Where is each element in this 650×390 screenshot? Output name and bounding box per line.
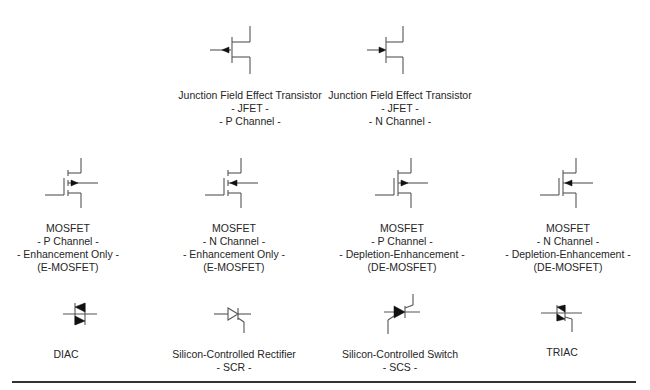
de-mosfet-n-channel-label: MOSFET - N Channel - - Depletion-Enhance… bbox=[505, 222, 630, 274]
bottom-divider bbox=[12, 381, 636, 383]
e-mosfet-n-channel-symbol bbox=[200, 150, 270, 212]
jfet-p-channel-symbol bbox=[205, 20, 295, 80]
diac-label: DIAC bbox=[53, 348, 78, 361]
de-mosfet-n-channel-symbol bbox=[535, 150, 605, 212]
jfet-p-channel-label: Junction Field Effect Transistor - JFET … bbox=[178, 89, 321, 128]
triac-label: TRIAC bbox=[546, 346, 578, 359]
scr-label: Silicon-Controlled Rectifier - SCR - bbox=[172, 348, 296, 374]
e-mosfet-p-channel-label: MOSFET - P Channel - - Enhancement Only … bbox=[17, 222, 119, 274]
e-mosfet-p-channel-symbol bbox=[40, 150, 110, 212]
diac-symbol bbox=[55, 300, 105, 330]
de-mosfet-p-channel-symbol bbox=[370, 150, 440, 212]
jfet-n-channel-symbol bbox=[362, 20, 452, 80]
scs-label: Silicon-Controlled Switch - SCS - bbox=[342, 348, 458, 374]
scr-symbol bbox=[210, 303, 260, 337]
triac-symbol bbox=[538, 302, 588, 336]
scs-symbol bbox=[380, 292, 430, 338]
e-mosfet-n-channel-label: MOSFET - N Channel - - Enhancement Only … bbox=[183, 222, 285, 274]
de-mosfet-p-channel-label: MOSFET - P Channel - - Depletion-Enhance… bbox=[339, 222, 464, 274]
jfet-n-channel-label: Junction Field Effect Transistor - JFET … bbox=[328, 89, 471, 128]
